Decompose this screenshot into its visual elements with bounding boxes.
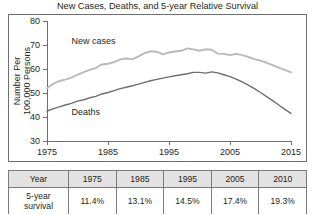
table-header-year-2010: 2010 — [259, 171, 307, 188]
x-tick-label: 1985 — [98, 147, 118, 157]
survival-data-table: Year19751985199520052010 5-yearsurvival1… — [8, 170, 307, 214]
table-row: 5-yearsurvival11.4%13.1%14.5%17.4%19.3% — [9, 188, 307, 215]
chart-figure: New Cases, Deaths, and 5-year Relative S… — [0, 0, 315, 214]
x-tick-label: 1975 — [37, 147, 57, 157]
table-header-year-1995: 1995 — [164, 171, 212, 188]
y-tick-label: 30 — [30, 136, 40, 146]
y-axis-title-line2: 100,000 Persons — [22, 46, 32, 115]
table-cell-survival-1995: 14.5% — [164, 188, 212, 215]
y-axis-ticks: 304050607080 — [30, 16, 47, 146]
series-inline-labels: New casesDeaths — [71, 36, 116, 117]
y-tick-label: 80 — [30, 16, 40, 26]
table-header-year-1985: 1985 — [116, 171, 164, 188]
table-header-year-2005: 2005 — [211, 171, 259, 188]
table-cell-survival-2005: 17.4% — [211, 188, 259, 215]
line-chart-svg: 304050607080 19751985199520052015 New ca… — [9, 15, 306, 161]
table-row-label: 5-yearsurvival — [9, 188, 69, 215]
x-tick-label: 2005 — [220, 147, 240, 157]
table-header-year-1975: 1975 — [69, 171, 117, 188]
series-line-new-cases — [47, 48, 291, 88]
table-cell-survival-1975: 11.4% — [69, 188, 117, 215]
x-tick-label: 2015 — [281, 147, 301, 157]
series-label-deaths: Deaths — [71, 107, 100, 117]
chart-title: New Cases, Deaths, and 5-year Relative S… — [0, 0, 315, 13]
x-tick-label: 1995 — [159, 147, 179, 157]
table-cell-survival-1985: 13.1% — [116, 188, 164, 215]
table-header-year-label: Year — [9, 171, 69, 188]
y-axis-title-line1: Number Per — [12, 57, 22, 106]
plot-panel: 304050607080 19751985199520052015 New ca… — [8, 14, 307, 162]
table-header-row: Year19751985199520052010 — [9, 171, 307, 188]
data-series-group — [47, 48, 291, 113]
series-label-new-cases: New cases — [71, 36, 116, 46]
x-axis-ticks: 19751985199520052015 — [37, 141, 301, 157]
x-axis-title: Year — [160, 159, 178, 161]
table-cell-survival-2010: 19.3% — [259, 188, 307, 215]
